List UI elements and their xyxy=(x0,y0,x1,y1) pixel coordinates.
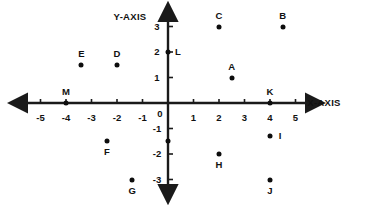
data-point-g xyxy=(130,177,135,182)
data-point-f xyxy=(104,139,109,144)
x-tick-label: 5 xyxy=(293,113,298,123)
data-point-d xyxy=(115,62,120,67)
x-tick-label: -5 xyxy=(36,113,44,123)
data-point-j xyxy=(268,177,273,182)
point-label-b: B xyxy=(279,11,286,21)
x-tick-label: 1 xyxy=(191,113,196,123)
point-label-d: D xyxy=(114,49,121,59)
y-tick-label: -2 xyxy=(153,149,161,159)
data-point-c xyxy=(217,24,222,29)
data-point-i xyxy=(268,134,273,139)
point-label-i: I xyxy=(279,131,282,141)
data-point-unlabeled xyxy=(166,139,171,144)
y-tick-label: 1 xyxy=(154,73,159,83)
point-label-m: M xyxy=(62,87,70,97)
x-tick-label: -3 xyxy=(87,113,95,123)
x-tick-label: 2 xyxy=(216,113,221,123)
point-label-a: A xyxy=(228,62,235,72)
point-label-e: E xyxy=(78,49,84,59)
coordinate-plane-figure: -5-4-3-2-112345321-1-2-3 ABCDEFGHIJKLM X… xyxy=(0,0,365,205)
y-tick-label: -3 xyxy=(153,175,161,185)
point-label-g: G xyxy=(129,186,136,196)
point-label-f: F xyxy=(104,148,110,158)
point-label-l: L xyxy=(175,47,181,57)
data-point-b xyxy=(280,24,285,29)
data-point-h xyxy=(217,152,222,157)
x-tick-label: -2 xyxy=(113,113,121,123)
data-point-k xyxy=(268,101,273,106)
data-point-e xyxy=(79,62,84,67)
origin-label: 0 xyxy=(157,109,162,119)
y-axis-title: Y-AXIS xyxy=(114,12,147,22)
x-tick-label: -1 xyxy=(138,113,146,123)
data-point-a xyxy=(229,75,234,80)
point-label-k: K xyxy=(267,87,274,97)
x-tick-label: 3 xyxy=(242,113,247,123)
x-tick-label: 4 xyxy=(267,113,272,123)
point-label-c: C xyxy=(216,11,223,21)
point-label-h: H xyxy=(216,160,223,170)
x-axis-title: X-AXIS xyxy=(307,98,340,108)
data-point-m xyxy=(64,101,69,106)
y-tick-label: 2 xyxy=(154,47,159,57)
y-tick-label: -1 xyxy=(153,124,161,134)
data-point-l xyxy=(166,50,171,55)
point-label-j: J xyxy=(267,186,272,196)
y-tick-label: 3 xyxy=(154,22,159,32)
x-tick-label: -4 xyxy=(62,113,70,123)
